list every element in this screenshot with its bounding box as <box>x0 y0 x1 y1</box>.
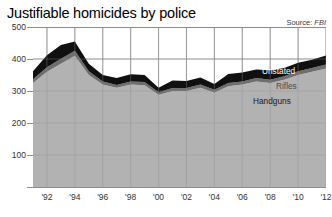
y-axis-tick-label: 300 <box>0 86 26 96</box>
y-axis-tick-label: 100 <box>0 150 26 160</box>
source-label: Source: <box>286 18 312 27</box>
page-title: Justifiable homicides by police <box>7 5 196 21</box>
x-axis-tick-label: '94 <box>63 192 87 202</box>
series-areas <box>33 41 326 187</box>
series-label-handguns: Handguns <box>253 96 291 106</box>
y-axis-tick-label: 400 <box>0 54 26 64</box>
x-axis-tick-label: '02 <box>174 192 198 202</box>
source-note: Source: FBI <box>286 18 326 27</box>
y-axis-tick-mark <box>27 123 33 124</box>
x-axis-tick-label: '12 <box>314 192 332 202</box>
x-axis-tick-label: '00 <box>147 192 171 202</box>
y-axis-tick-label: 500 <box>0 22 26 32</box>
x-axis-tick-label: '06 <box>230 192 254 202</box>
chart-container: Justifiable homicides by police Source: … <box>0 0 332 217</box>
x-axis-tick-label: '92 <box>35 192 59 202</box>
series-label-rifles: Rifles <box>276 81 297 91</box>
source-value: FBI <box>314 18 326 27</box>
y-axis-tick-label: 200 <box>0 118 26 128</box>
plot-area <box>33 27 326 187</box>
series-label-unstated: Unstated <box>262 66 295 76</box>
y-axis-tick-mark <box>27 59 33 60</box>
axis-baseline <box>27 187 326 188</box>
y-axis-tick-mark <box>27 155 33 156</box>
x-axis-tick-label: '96 <box>91 192 115 202</box>
x-axis-tick-label: '08 <box>258 192 282 202</box>
stacked-area-svg <box>33 27 326 187</box>
y-axis-tick-mark <box>27 27 33 28</box>
y-axis-tick-mark <box>27 91 33 92</box>
x-axis-tick-label: '98 <box>119 192 143 202</box>
x-axis-tick-label: '10 <box>286 192 310 202</box>
x-axis-tick-label: '04 <box>202 192 226 202</box>
